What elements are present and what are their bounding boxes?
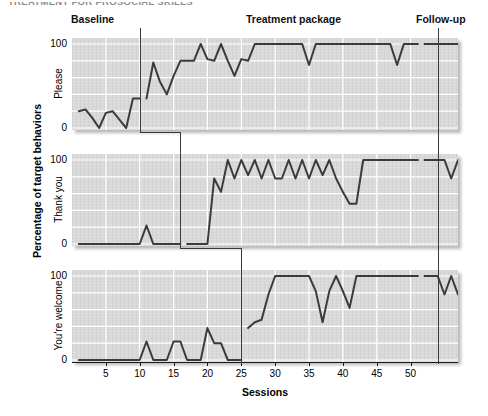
- phase-label-followup: Follow-up: [416, 13, 466, 25]
- x-tick-label-50: 50: [405, 368, 416, 379]
- data-line-please: [72, 38, 458, 130]
- x-axis-line: [72, 362, 458, 363]
- phase-label-baseline: Baseline: [71, 13, 114, 25]
- x-tick-10: [140, 362, 141, 366]
- phase-line-thank-you: [180, 132, 181, 248]
- x-tick-30: [275, 362, 276, 366]
- x-tick-label-20: 20: [202, 368, 213, 379]
- panel-label-youre-welcome: You're welcome: [53, 256, 64, 376]
- phase-line-please: [140, 28, 141, 132]
- figure-root: TREATMENT FOR PROSOCIAL SKILLS Baseline …: [0, 0, 488, 416]
- x-tick-40: [343, 362, 344, 366]
- phase-line-youre-welcome: [241, 248, 242, 364]
- phase-label-treatment: Treatment package: [246, 13, 341, 25]
- x-tick-35: [309, 362, 310, 366]
- x-tick-label-45: 45: [371, 368, 382, 379]
- x-axis-title: Sessions: [72, 386, 458, 398]
- phase-step-2: [180, 248, 241, 249]
- phase-step-1: [140, 132, 181, 133]
- panel-youre-welcome: 100 0 You're welcome: [72, 270, 458, 362]
- panel-label-thank-you: Thank you: [53, 140, 64, 260]
- x-tick-label-5: 5: [103, 368, 109, 379]
- x-tick-label-30: 30: [270, 368, 281, 379]
- panel-thank-you: 100 0 Thank you: [72, 154, 458, 246]
- x-tick-15: [174, 362, 175, 366]
- x-tick-label-10: 10: [134, 368, 145, 379]
- x-tick-5: [106, 362, 107, 366]
- y-axis-title: Percentage of target behaviors: [31, 81, 43, 281]
- x-tick-45: [377, 362, 378, 366]
- x-tick-20: [207, 362, 208, 366]
- phase-line-followup: [438, 28, 439, 364]
- panel-label-please: Please: [53, 24, 64, 144]
- x-tick-50: [411, 362, 412, 366]
- x-tick-label-25: 25: [236, 368, 247, 379]
- data-line-youre-welcome: [72, 270, 458, 362]
- x-tick-label-35: 35: [303, 368, 314, 379]
- panel-please: 100 0 Please: [72, 38, 458, 130]
- x-tick-label-40: 40: [337, 368, 348, 379]
- x-tick-label-15: 15: [168, 368, 179, 379]
- data-line-thank-you: [72, 154, 458, 246]
- figure-title: TREATMENT FOR PROSOCIAL SKILLS: [8, 0, 193, 7]
